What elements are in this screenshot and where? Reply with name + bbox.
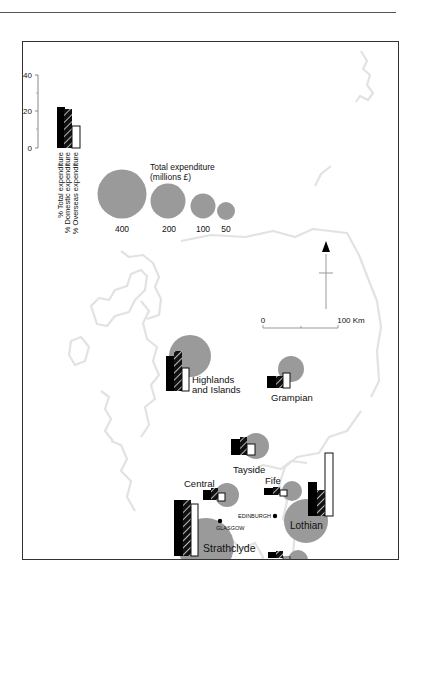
region-grampian: Grampian — [267, 356, 313, 403]
legend-bar-labels: % Total expenditure % Domestic expenditu… — [56, 152, 80, 234]
circle-400 — [98, 170, 147, 219]
top-rule — [0, 12, 396, 13]
scale-bar: 0 100 Km — [261, 316, 365, 328]
label-tayside: Tayside — [233, 464, 265, 475]
label-lothian: Lothian — [290, 520, 323, 531]
label-central: Central — [184, 478, 215, 489]
label-fife: Fife — [265, 475, 281, 486]
north-arrow-icon — [319, 241, 333, 309]
circle-label-200: 200 — [162, 224, 176, 234]
region-fife: Fife — [264, 475, 302, 501]
region-central: Central — [184, 478, 239, 507]
legend-sample-bars — [57, 107, 80, 148]
map-frame: 40 20 0 % Total expenditure % Domestic e… — [22, 41, 399, 560]
label-overseas-expenditure: % Overseas expenditure — [71, 152, 80, 234]
legend-bar-domestic — [64, 109, 72, 148]
map-canvas: 40 20 0 % Total expenditure % Domestic e… — [23, 42, 399, 560]
label-edinburgh: EDINBURGH — [238, 513, 271, 519]
circle-label-400: 400 — [115, 224, 129, 234]
circle-label-50: 50 — [221, 224, 231, 234]
region-borders: Borders — [268, 550, 320, 560]
scale-end-label: 100 Km — [337, 316, 365, 325]
legend-bar-overseas — [72, 126, 80, 148]
axis-tick-0: 0 — [28, 144, 33, 153]
legend-bar-axis: 40 20 0 — [23, 71, 38, 153]
circle-50 — [217, 202, 235, 220]
axis-tick-20: 20 — [23, 107, 32, 116]
glasgow-marker-icon — [218, 519, 222, 523]
legend-circles: Total expenditure (millions £) 400 200 1… — [98, 162, 236, 234]
circle-200 — [151, 184, 186, 219]
region-highlands: Highlands and Islands — [166, 335, 241, 395]
circle-legend-subtitle: (millions £) — [150, 172, 191, 182]
axis-tick-40: 40 — [23, 71, 32, 80]
label-and-islands: and Islands — [192, 384, 241, 395]
label-grampian: Grampian — [271, 392, 313, 403]
label-strathclyde: Strathclyde — [203, 542, 256, 554]
circle-100 — [191, 194, 216, 219]
label-glasgow: GLASGOW — [216, 525, 245, 531]
city-glasgow: GLASGOW — [216, 519, 245, 531]
circle-legend-title: Total expenditure — [150, 162, 215, 172]
circle-label-100: 100 — [196, 224, 210, 234]
edinburgh-marker-icon — [273, 514, 277, 518]
region-tayside: Tayside — [231, 433, 269, 475]
city-edinburgh: EDINBURGH — [238, 513, 277, 519]
scale-start-label: 0 — [261, 316, 266, 325]
